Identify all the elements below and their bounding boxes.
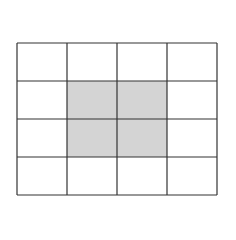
grid-cell: [167, 119, 217, 157]
grid-diagram: [16, 42, 218, 196]
grid-cell: [17, 119, 67, 157]
grid-svg: [16, 42, 218, 196]
shaded-cell: [117, 119, 167, 157]
grid-cell: [17, 157, 67, 195]
grid-cell: [17, 43, 67, 81]
grid-cell: [67, 43, 117, 81]
grid-cell: [67, 157, 117, 195]
shaded-cell: [117, 81, 167, 119]
grid-cell: [167, 157, 217, 195]
grid-cell: [117, 43, 167, 81]
shaded-cell: [67, 81, 117, 119]
shaded-cell: [67, 119, 117, 157]
grid-cell: [17, 81, 67, 119]
grid-cell: [117, 157, 167, 195]
grid-cell: [167, 81, 217, 119]
grid-cell: [167, 43, 217, 81]
